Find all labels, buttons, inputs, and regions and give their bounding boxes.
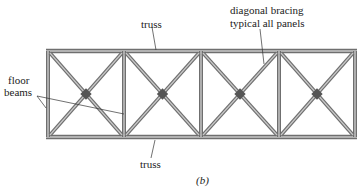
top-truss-label: truss [141,18,162,30]
diagonal-bracing-label-line2: typical all panels [230,17,305,29]
floor-beams-label-line2: beams [4,86,32,98]
truss-diagram: truss diagonal bracing typical all panel… [0,0,364,187]
panel-1-bracing [50,53,122,135]
panel-3-bracing [203,53,277,135]
panel-4-bracing [281,53,353,135]
bottom-truss-label: truss [140,158,161,170]
floor-beams [48,51,355,137]
floor-beams-label-line1: floor [8,74,30,86]
diagonal-bracing-leader [260,29,264,64]
top-truss-leader [152,27,156,50]
diagonal-bracing-label-line1: diagonal bracing [230,4,304,16]
panel-2-bracing [126,53,199,135]
bottom-truss-leader [151,140,155,158]
figure-caption: (b) [196,174,209,187]
